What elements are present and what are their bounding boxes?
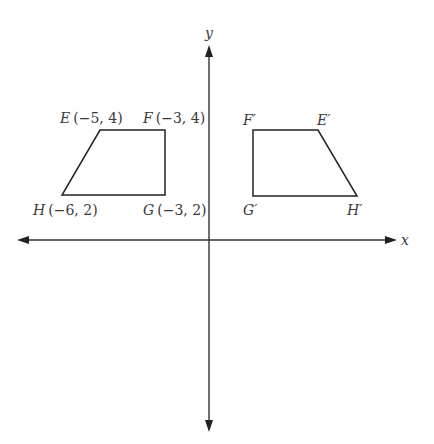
trapezoid-efgh-prime bbox=[253, 130, 357, 196]
vertex-label-g: G(−3, 2) bbox=[143, 202, 207, 218]
x-axis-right-arrow-icon bbox=[385, 236, 397, 244]
x-axis-left-arrow-icon bbox=[17, 236, 29, 244]
vertex-label-g-prime: G′ bbox=[243, 202, 258, 218]
vertex-label-h-prime: H′ bbox=[346, 202, 363, 218]
coordinate-plane: x y E(−5, 4) F(−3, 4) G(−3, 2) H(−6, 2) … bbox=[0, 0, 434, 444]
trapezoid-efgh bbox=[62, 130, 165, 195]
y-axis-label: y bbox=[204, 25, 214, 41]
y-axis bbox=[205, 45, 213, 432]
vertex-label-e-prime: E′ bbox=[316, 112, 331, 128]
vertex-label-f: F(−3, 4) bbox=[142, 110, 205, 126]
y-axis-up-arrow-icon bbox=[205, 45, 213, 57]
x-axis-label: x bbox=[401, 232, 409, 248]
vertex-label-e: E(−5, 4) bbox=[59, 110, 123, 126]
x-axis bbox=[17, 236, 397, 244]
vertex-label-f-prime: F′ bbox=[242, 112, 257, 128]
y-axis-down-arrow-icon bbox=[205, 420, 213, 432]
vertex-label-h: H(−6, 2) bbox=[32, 202, 98, 218]
